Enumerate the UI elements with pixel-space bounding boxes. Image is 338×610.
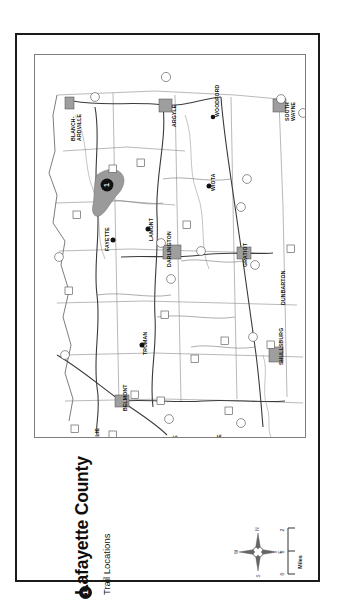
route-shield-county	[131, 391, 139, 399]
scale-tick-0: 0	[279, 572, 285, 575]
town-label-lamont: LAMONT	[148, 217, 154, 241]
route-shield-state	[165, 415, 174, 424]
scale-units-label: Miles	[297, 555, 303, 568]
legend-trail-marker-icon: 1	[79, 586, 92, 599]
route-shield-state	[251, 261, 260, 270]
route-shield-county	[157, 397, 165, 405]
town-label-shullsburg: SHULLSBURG	[278, 328, 284, 365]
route-shield-state	[157, 239, 166, 248]
route-shield-county	[267, 341, 275, 349]
town-label-south-wayne-2: WAYNE	[290, 101, 296, 121]
town-label-dunbarton: DUNBARTON	[280, 270, 286, 305]
route-shield-county	[191, 355, 199, 363]
town-label-jenkynsville: JENKYNSVILLE	[216, 434, 222, 438]
route-shield-state	[161, 72, 170, 81]
route-shield-state	[299, 109, 306, 118]
route-shield-state	[237, 203, 246, 212]
legend-label: Trail Locations	[101, 534, 112, 595]
town-label-leslie: LESLIE	[94, 428, 100, 438]
route-shield-state	[91, 93, 100, 102]
route-shield-state	[237, 419, 246, 428]
route-shield-county	[65, 287, 73, 295]
trail-marker-1-label: 1	[103, 183, 110, 187]
route-shield-state	[61, 351, 70, 360]
route-shield-county	[109, 165, 117, 173]
route-shield-county	[71, 425, 79, 433]
town-label-elk-grove: ELK GROVE	[172, 435, 178, 438]
route-shield-county	[109, 431, 117, 438]
route-shield-state	[243, 175, 252, 184]
town-labels: BLANCH- ARDVILLE ARGYLE WOODFORD SOUTH W…	[70, 84, 296, 438]
route-shield-county	[161, 311, 169, 319]
route-shield-county	[225, 407, 233, 415]
scale-tick-2: 2	[279, 528, 285, 531]
scale-bar: 0 1 2 Miles	[275, 522, 313, 584]
page-border: BLANCH- ARDVILLE ARGYLE WOODFORD SOUTH W…	[15, 33, 320, 582]
compass-label-west: W	[234, 549, 239, 554]
map-page: BLANCH- ARDVILLE ARGYLE WOODFORD SOUTH W…	[0, 0, 338, 610]
lake-feature	[92, 169, 123, 216]
place-dots	[91, 115, 223, 438]
route-shield-state	[249, 333, 258, 342]
page-title: Lafayette County	[72, 456, 93, 595]
county-map-graphic: BLANCH- ARDVILLE ARGYLE WOODFORD SOUTH W…	[35, 55, 306, 438]
compass-label-south: S	[256, 574, 261, 577]
route-shield-county	[221, 337, 229, 345]
route-shield-state	[167, 275, 176, 284]
town-label-fayette: FAYETTE	[104, 227, 110, 251]
town-label-woodford: WOODFORD	[214, 84, 220, 117]
route-shield-state	[197, 247, 206, 256]
town-label-wiota: WIOTA	[210, 173, 216, 191]
town-label-gratiot: GRATIOT	[242, 242, 248, 267]
map-panel: BLANCH- ARDVILLE ARGYLE WOODFORD SOUTH W…	[34, 54, 306, 438]
route-shield-state	[55, 253, 64, 262]
legend-trail-marker-number: 1	[79, 590, 92, 594]
trail-markers: 1 2	[86, 179, 113, 438]
compass-label-north: N	[255, 527, 260, 530]
route-shield-county	[73, 211, 81, 219]
town-label-blanchardville-2: ARDVILLE	[76, 114, 82, 141]
dot-fayette	[111, 238, 116, 243]
place-blanchardville	[65, 97, 74, 109]
route-shield-state	[277, 95, 286, 104]
town-label-belmont: BELMONT	[122, 384, 128, 411]
route-shield-county	[287, 245, 295, 253]
trail-marker-2	[86, 437, 99, 438]
route-shield-county	[137, 159, 145, 167]
minor-roads	[97, 178, 255, 348]
town-label-argyle: ARGYLE	[171, 104, 177, 127]
town-label-darlington: DARLINGTON	[166, 231, 172, 267]
route-shield-county	[183, 221, 191, 229]
scale-tick-1: 1	[279, 550, 285, 553]
town-label-truman: TRUMAN	[142, 332, 148, 355]
